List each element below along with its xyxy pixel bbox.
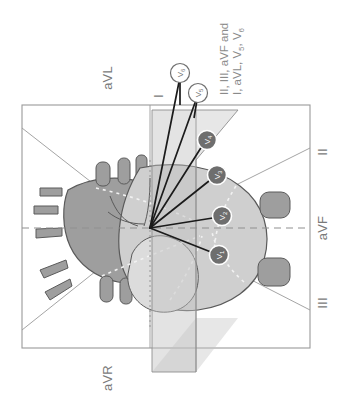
vessel-stub-1 — [96, 162, 110, 186]
label-lead-aVF-group: aVF — [315, 216, 330, 240]
label-lead-aVF: aVF — [315, 216, 330, 240]
lead-marker-V5[interactable]: V5 — [189, 84, 208, 103]
plane-caption: II, III, aVF and I, aVL, V5, V6 — [218, 23, 246, 95]
vessel-branch-mid — [34, 206, 58, 214]
vessel-branch-upper — [40, 188, 62, 196]
lead-marker-V4[interactable]: V4 — [198, 131, 217, 150]
label-lead-I-group: I — [151, 94, 166, 98]
lateral-vessel-upper — [260, 192, 290, 218]
label-lead-aVL: aVL — [100, 66, 115, 90]
lead-marker-V1[interactable]: V1 — [210, 246, 229, 265]
label-lead-III-group: III — [315, 297, 330, 308]
label-lead-aVR-group: aVR — [100, 365, 115, 391]
lead-marker-V3[interactable]: V3 — [208, 166, 227, 185]
diagram-canvas: V1 V2 V3 V4 V5 — [0, 0, 345, 420]
caption-line-1: II, III, aVF and — [218, 23, 230, 95]
label-lead-II-group: II — [315, 148, 330, 156]
label-lead-II: II — [315, 148, 330, 156]
vessel-stub-4 — [100, 276, 113, 302]
lateral-vessel-lower — [258, 258, 290, 286]
label-lead-III: III — [315, 297, 330, 308]
lead-marker-V6[interactable]: V6 — [171, 64, 190, 83]
label-lead-aVL-group: aVL — [100, 66, 115, 90]
lead-marker-V2[interactable]: V2 — [213, 207, 232, 226]
vessel-stub-2 — [118, 158, 130, 184]
ecg-lead-vector-diagram: V1 V2 V3 V4 V5 — [0, 0, 345, 420]
label-lead-aVR: aVR — [100, 365, 115, 391]
label-lead-I: I — [151, 94, 166, 98]
vessel-branch-lower — [36, 228, 62, 238]
